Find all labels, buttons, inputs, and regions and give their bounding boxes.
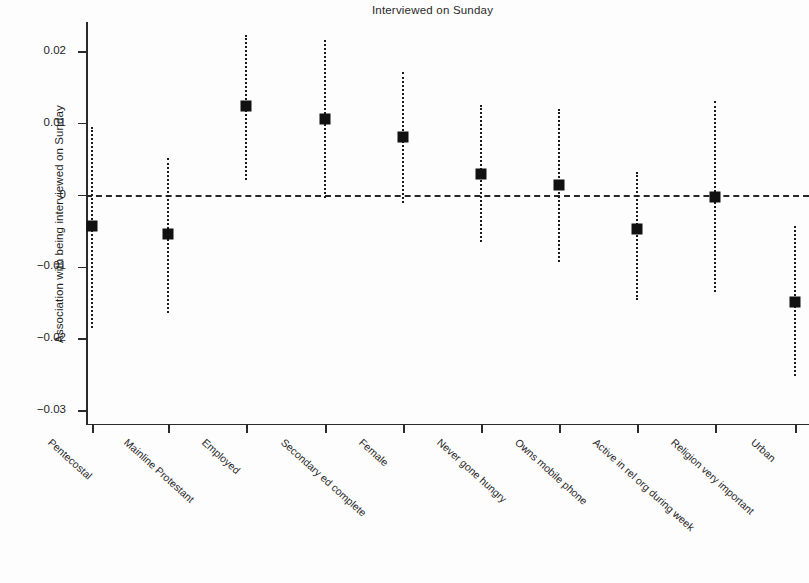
x-axis-tick: [246, 424, 248, 433]
y-axis-tick-label: 0.02: [16, 44, 66, 56]
data-point-marker: [163, 228, 174, 239]
x-axis-tick: [559, 424, 561, 433]
chart-root: Interviewed on Sunday Association with b…: [0, 0, 809, 583]
y-axis-tick: [78, 267, 87, 269]
data-point-marker: [632, 223, 643, 234]
x-axis-tick-label: Owns mobile phone: [513, 436, 590, 507]
x-axis-tick: [637, 424, 639, 433]
y-axis-tick: [78, 123, 87, 125]
y-axis-tick: [78, 51, 87, 53]
y-axis-tick: [78, 410, 87, 412]
x-axis-tick: [715, 424, 717, 433]
y-axis-tick: [78, 195, 87, 197]
x-axis-tick: [325, 424, 327, 433]
data-point-marker: [476, 168, 487, 179]
data-point-marker: [710, 191, 721, 202]
x-axis-tick: [92, 424, 94, 433]
data-point-marker: [398, 132, 409, 143]
zero-reference-line: [86, 195, 809, 197]
y-axis-tick-label: 0: [16, 188, 66, 200]
y-axis-tick-label: 0.01: [16, 116, 66, 128]
x-axis-tick-label: Pentecostal: [46, 436, 95, 482]
x-axis-tick-label: Secondary ed complete: [279, 436, 369, 519]
data-point-marker: [87, 220, 98, 231]
data-point-marker: [320, 113, 331, 124]
x-axis-tick: [168, 424, 170, 433]
y-axis-tick-label: −0.02: [16, 331, 66, 343]
x-axis-tick-label: Female: [357, 436, 391, 468]
x-axis-tick-label: Mainline Protestant: [122, 436, 197, 505]
confidence-interval-line: [636, 172, 638, 301]
x-axis-line: [86, 424, 809, 426]
plot-area: 0.020.010−0.01−0.02−0.03 PentecostalMain…: [0, 0, 809, 583]
x-axis-tick: [795, 424, 797, 433]
x-axis-tick: [403, 424, 405, 433]
x-axis-tick-label: Employed: [200, 436, 243, 476]
x-axis-tick: [481, 424, 483, 433]
y-axis-tick: [78, 338, 87, 340]
y-axis-tick-label: −0.03: [16, 403, 66, 415]
x-axis-tick-label: Religion very important: [669, 436, 757, 517]
y-axis-tick-label: −0.01: [16, 259, 66, 271]
x-axis-tick-label: Urban: [749, 436, 778, 464]
x-axis-tick-label: Never gone hungry: [435, 436, 509, 505]
data-point-marker: [554, 180, 565, 191]
data-point-marker: [241, 101, 252, 112]
data-point-marker: [790, 297, 801, 308]
